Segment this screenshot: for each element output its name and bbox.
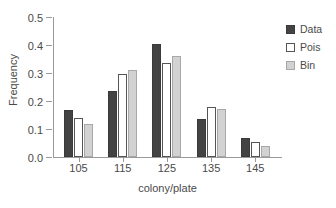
legend-item-data: Data bbox=[286, 20, 334, 38]
bar-bin-115 bbox=[128, 70, 137, 157]
bar-pois-135 bbox=[207, 107, 216, 157]
legend-swatch-pois bbox=[286, 43, 295, 52]
y-axis-title: Frequency bbox=[2, 0, 24, 160]
y-axis-tick-label: 0.5 bbox=[28, 12, 43, 23]
bar-bin-105 bbox=[84, 124, 93, 157]
y-axis-tick-label: 0.2 bbox=[28, 96, 43, 107]
bar-data-145 bbox=[241, 138, 250, 157]
bar-data-105 bbox=[64, 110, 73, 157]
bar-data-135 bbox=[197, 119, 206, 157]
x-axis-tick-label: 135 bbox=[202, 163, 220, 174]
y-axis-tick: 0.5 bbox=[46, 17, 52, 18]
y-axis-title-text: Frequency bbox=[7, 54, 19, 106]
bar-chart-figure: Frequency 0.00.10.20.30.40.5 10511512513… bbox=[0, 0, 336, 208]
bar-group: 105 bbox=[64, 17, 93, 157]
legend-label: Data bbox=[300, 24, 322, 35]
bar-data-125 bbox=[152, 44, 161, 157]
bar-pois-125 bbox=[162, 63, 171, 157]
bar-bin-135 bbox=[217, 109, 226, 157]
legend-label: Bin bbox=[300, 60, 315, 71]
y-axis-tick-label: 0.3 bbox=[28, 68, 43, 79]
y-axis-tick: 0.4 bbox=[46, 45, 52, 46]
y-axis-tick-label: 0.1 bbox=[28, 124, 43, 135]
bar-groups: 105115125135145 bbox=[54, 17, 282, 157]
legend-item-pois: Pois bbox=[286, 38, 334, 56]
legend-swatch-data bbox=[286, 25, 295, 34]
x-axis-tick-label: 145 bbox=[246, 163, 264, 174]
bar-pois-105 bbox=[74, 118, 83, 157]
y-axis-tick-label: 0.4 bbox=[28, 40, 43, 51]
bar-group: 135 bbox=[197, 17, 226, 157]
y-axis-tick: 0.2 bbox=[46, 101, 52, 102]
legend-item-bin: Bin bbox=[286, 56, 334, 74]
bar-data-115 bbox=[108, 91, 117, 157]
bar-pois-145 bbox=[251, 142, 260, 157]
x-axis-title-text: colony/plate bbox=[138, 182, 197, 194]
bar-group: 125 bbox=[152, 17, 181, 157]
legend-label: Pois bbox=[300, 42, 320, 53]
x-axis-tick-label: 105 bbox=[69, 163, 87, 174]
plot-area: 0.00.10.20.30.40.5 105115125135145 bbox=[53, 17, 275, 158]
x-axis-tick-label: 115 bbox=[114, 163, 132, 174]
y-axis-tick-label: 0.0 bbox=[28, 152, 43, 163]
bar-pois-115 bbox=[118, 74, 127, 157]
x-axis-tick-label: 125 bbox=[158, 163, 176, 174]
legend-swatch-bin bbox=[286, 61, 295, 70]
chart-legend: DataPoisBin bbox=[286, 20, 334, 74]
y-axis-tick: 0.3 bbox=[46, 73, 52, 74]
bar-bin-145 bbox=[261, 146, 270, 157]
bar-bin-125 bbox=[172, 56, 181, 157]
bar-group: 145 bbox=[241, 17, 270, 157]
y-axis-tick: 0.0 bbox=[46, 157, 52, 158]
y-axis-tick: 0.1 bbox=[46, 129, 52, 130]
bar-group: 115 bbox=[108, 17, 137, 157]
x-axis-title: colony/plate bbox=[53, 182, 282, 194]
